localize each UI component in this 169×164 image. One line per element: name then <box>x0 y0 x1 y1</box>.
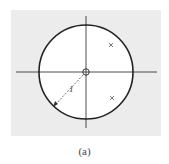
pole-zero-diagram: 1 <box>0 0 169 164</box>
radius-label: 1 <box>69 84 74 94</box>
figure-caption: (a) <box>0 145 169 157</box>
